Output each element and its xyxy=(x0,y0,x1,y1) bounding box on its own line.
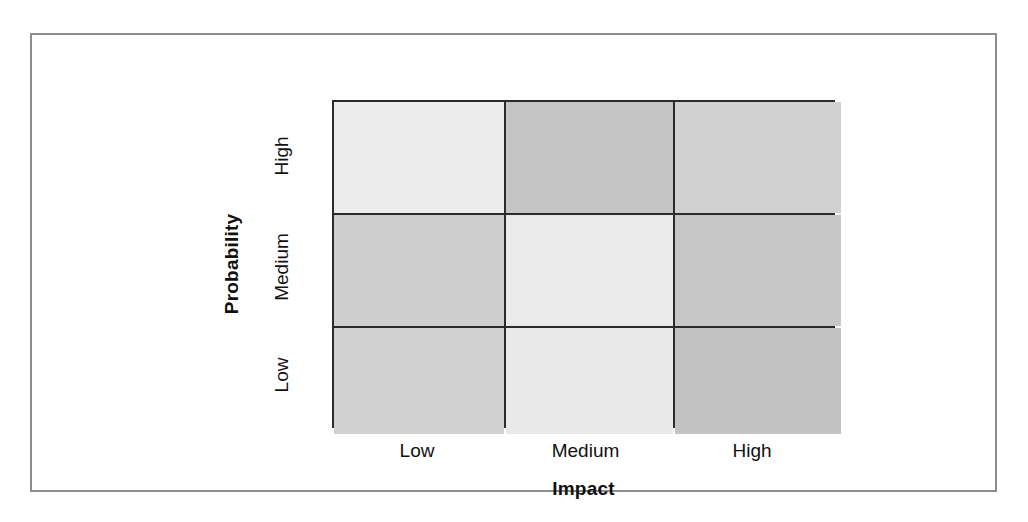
x-tick-high: High xyxy=(669,440,835,462)
y-tick-high-label: High xyxy=(271,136,293,175)
x-tick-low: Low xyxy=(332,440,502,462)
y-axis-title: Probability xyxy=(217,100,247,428)
matrix-cell-high-medium[interactable] xyxy=(506,102,673,213)
matrix-cell-high-low[interactable] xyxy=(334,102,504,213)
risk-matrix-grid xyxy=(332,100,835,428)
y-tick-medium: Medium xyxy=(262,211,302,322)
risk-matrix-plot xyxy=(332,100,835,428)
y-tick-low-label: Low xyxy=(271,358,293,393)
y-axis-title-label: Probability xyxy=(221,214,243,314)
y-tick-medium-label: Medium xyxy=(271,233,293,301)
x-axis-title: Impact xyxy=(332,478,835,500)
figure-frame: Probability High Medium Low Low Medium H… xyxy=(30,33,997,492)
y-tick-high: High xyxy=(262,100,302,211)
matrix-cell-high-high[interactable] xyxy=(675,102,841,213)
matrix-cell-medium-medium[interactable] xyxy=(506,215,673,326)
matrix-cell-low-high[interactable] xyxy=(675,328,841,434)
y-tick-low: Low xyxy=(262,322,302,428)
matrix-cell-medium-low[interactable] xyxy=(334,215,504,326)
x-tick-medium: Medium xyxy=(502,440,669,462)
matrix-cell-medium-high[interactable] xyxy=(675,215,841,326)
matrix-cell-low-low[interactable] xyxy=(334,328,504,434)
matrix-cell-low-medium[interactable] xyxy=(506,328,673,434)
